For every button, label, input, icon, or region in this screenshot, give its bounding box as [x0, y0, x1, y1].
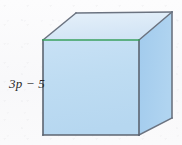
cube-diagram — [0, 0, 182, 145]
cube-edge-top-back — [76, 12, 172, 13]
figure-canvas: 3p − 5 — [0, 0, 182, 145]
edge-length-label: 3p − 5 — [9, 77, 45, 90]
cube-front-face — [43, 40, 139, 135]
